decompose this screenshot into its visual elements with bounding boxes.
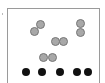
- black-dot: [73, 68, 81, 76]
- gray-circle: [76, 28, 85, 37]
- gray-circle: [59, 37, 68, 46]
- black-dot: [84, 68, 92, 76]
- black-dot: [22, 68, 30, 76]
- black-dot: [38, 68, 46, 76]
- gray-circle: [30, 27, 39, 36]
- black-dot: [56, 68, 64, 76]
- gray-circle: [39, 53, 48, 62]
- margin-mark: [2, 13, 3, 15]
- gray-circle: [48, 53, 57, 62]
- gray-circle: [76, 19, 85, 28]
